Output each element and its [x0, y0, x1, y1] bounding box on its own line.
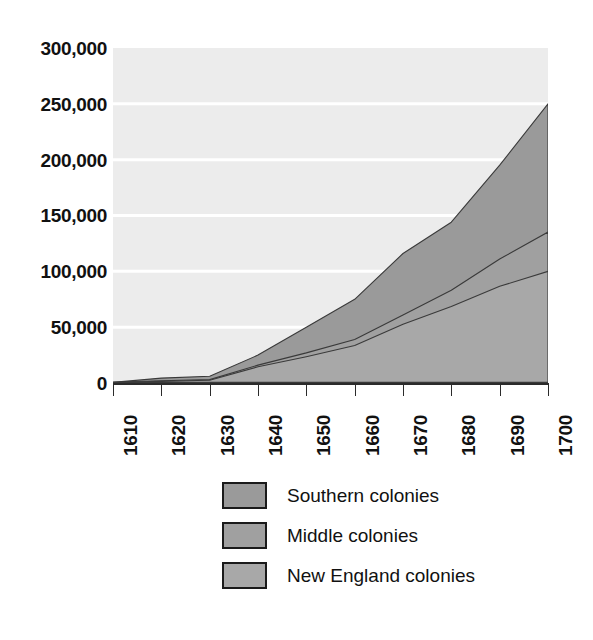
x-tick-1610 [113, 383, 114, 396]
stacked-area-svg [113, 48, 548, 383]
x-tick-label-1680: 1680 [459, 415, 478, 456]
legend-label-new-england: New England colonies [287, 566, 475, 585]
x-tick-1640 [258, 383, 259, 396]
legend-item-middle-colonies[interactable]: Middle colonies [222, 520, 418, 550]
legend-swatch-icon-middle [222, 522, 267, 549]
legend-swatch-icon-new-england [222, 562, 267, 589]
x-axis-ticks [113, 383, 549, 397]
x-tick-1680 [451, 383, 452, 396]
chart-container: 300,000 250,000 200,000 150,000 100,000 … [0, 0, 593, 470]
y-tick-label-200000: 200,000 [40, 151, 107, 170]
x-tick-label-1660: 1660 [363, 415, 382, 456]
x-tick-label-1610: 1610 [121, 415, 140, 456]
x-tick-1650 [306, 383, 307, 396]
chart-legend: Southern colonies Middle colonies New En… [0, 470, 593, 640]
x-tick-label-1640: 1640 [266, 415, 285, 456]
legend-item-new-england-colonies[interactable]: New England colonies [222, 560, 475, 590]
x-tick-1630 [210, 383, 211, 396]
y-tick-label-0: 0 [97, 374, 107, 393]
y-tick-label-100000: 100,000 [40, 262, 107, 281]
y-tick-label-50000: 50,000 [51, 318, 107, 337]
y-tick-label-300000: 300,000 [40, 39, 107, 58]
x-tick-label-1620: 1620 [169, 415, 188, 456]
x-axis-labels: 1610 1620 1630 1640 1650 1660 1670 1680 … [0, 396, 593, 466]
x-tick-1700 [548, 383, 549, 396]
x-tick-1690 [500, 383, 501, 396]
x-tick-1660 [355, 383, 356, 396]
y-tick-label-150000: 150,000 [40, 206, 107, 225]
x-tick-label-1690: 1690 [508, 415, 527, 456]
plot-area [113, 48, 548, 383]
x-tick-label-1650: 1650 [314, 415, 333, 456]
legend-label-southern: Southern colonies [287, 486, 439, 505]
chart-page: 300,000 250,000 200,000 150,000 100,000 … [0, 0, 593, 640]
x-tick-label-1670: 1670 [411, 415, 430, 456]
x-tick-1670 [403, 383, 404, 396]
x-tick-label-1700: 1700 [556, 415, 575, 456]
legend-item-southern-colonies[interactable]: Southern colonies [222, 480, 439, 510]
x-tick-1620 [161, 383, 162, 396]
legend-swatch-icon-southern [222, 482, 267, 509]
legend-label-middle: Middle colonies [287, 526, 418, 545]
y-tick-label-250000: 250,000 [40, 95, 107, 114]
x-tick-label-1630: 1630 [218, 415, 237, 456]
